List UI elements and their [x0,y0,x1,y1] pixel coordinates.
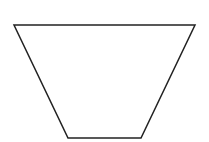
diagram-canvas [0,0,209,142]
trapezoid-shape [14,25,195,138]
trapezoid-diagram [0,0,209,142]
